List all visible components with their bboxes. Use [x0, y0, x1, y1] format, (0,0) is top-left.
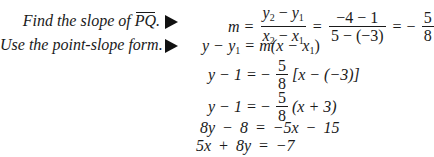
numerator: −4 − 1: [334, 9, 380, 26]
step-label-point-slope: Use the point-slope form.: [0, 36, 160, 54]
rhs: [x − (−3)]: [292, 66, 360, 84]
minus-sign: −: [261, 98, 270, 116]
slope-var: m: [228, 18, 240, 36]
equals-sign: =: [313, 18, 322, 36]
minus-sign: −: [407, 18, 416, 36]
step-text: Find the slope of: [23, 12, 135, 29]
slope-values-fraction: −4 − 1 5 − (−3): [329, 9, 386, 44]
equals-sign: =: [245, 18, 254, 36]
denominator: 8: [422, 26, 434, 44]
point-slope-equation: y−y1=m(x−x1): [202, 37, 320, 56]
line-pq-label: PQ: [135, 12, 156, 29]
lhs: y − 1: [208, 66, 242, 84]
step-label-find-slope: Find the slope of PQ.: [0, 12, 160, 30]
arrow-icon: [165, 39, 178, 53]
step-period: .: [156, 12, 160, 29]
multiplied-equation: 8y − 8 = −5x − 15: [200, 119, 339, 137]
lhs: y − 1: [208, 98, 242, 116]
subscript: 1: [299, 12, 304, 23]
numerator: 5: [276, 57, 288, 74]
equals-sign: =: [393, 18, 402, 36]
fraction: 5 8: [276, 57, 288, 92]
paren: ): [314, 37, 319, 54]
var: x: [276, 37, 283, 54]
numerator: 5: [276, 89, 288, 106]
var: m(: [259, 37, 276, 54]
substitution-equation: y − 1 = − 5 8 [x − (−3)]: [208, 57, 360, 92]
denominator: 5 − (−3): [329, 26, 386, 44]
equals-sign: =: [245, 37, 254, 54]
subscript: 2: [270, 12, 275, 23]
slope-result-fraction: 5 8: [422, 9, 434, 44]
minus-sign: −: [261, 66, 270, 84]
arrow-icon: [165, 15, 178, 29]
equals-sign: =: [247, 98, 256, 116]
rhs: (x + 3): [292, 98, 337, 116]
minus-sign: −: [288, 37, 297, 54]
var: y: [202, 37, 209, 54]
var: y: [263, 4, 270, 21]
subscript: 1: [235, 45, 240, 56]
var: y: [292, 4, 299, 21]
equals-sign: =: [247, 66, 256, 84]
minus-sign: −: [214, 37, 223, 54]
standard-form-equation: 5x + 8y = −7: [196, 137, 295, 155]
numerator: 5: [422, 9, 434, 26]
